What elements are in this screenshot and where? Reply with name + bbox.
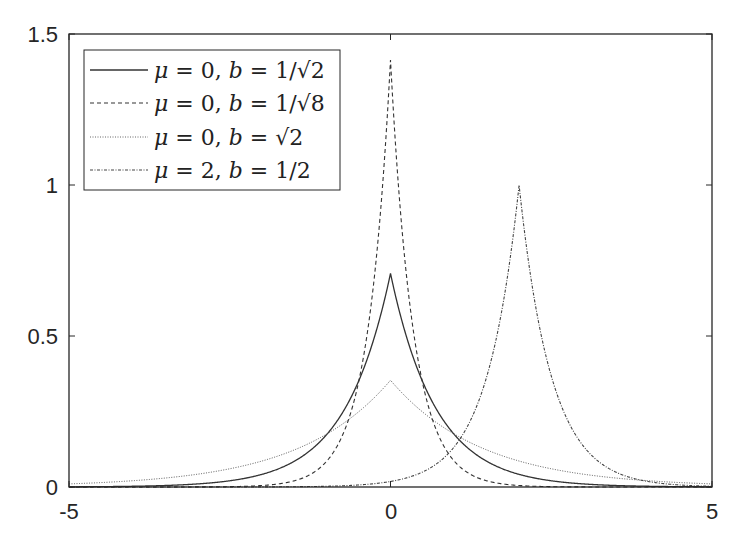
y-tick-label: 0 [46,475,58,500]
curve-dashdot [69,185,712,487]
legend: μ = 0, b = 1/√2 μ = 0, b = 1/√8 μ = 0, b… [84,50,340,190]
y-tick-labels: 0 0.5 1 1.5 [27,22,58,500]
legend-label: μ = 0, b = √2 [154,125,303,150]
laplace-pdf-chart: -5 0 5 0 0.5 1 1.5 μ = 0, b = 1/√2 μ = 0… [0,0,736,552]
x-tick-label: -5 [59,499,79,524]
legend-label: μ = 2, b = 1/2 [154,158,311,183]
legend-label: μ = 0, b = 1/√2 [154,58,325,83]
x-tick-label: 0 [385,499,397,524]
legend-label: μ = 0, b = 1/√8 [154,91,325,116]
curve-solid [69,273,712,486]
curve-dotted [69,380,712,484]
x-tick-labels: -5 0 5 [59,499,718,524]
y-tick-label: 0.5 [27,324,58,349]
y-tick-label: 1.5 [27,22,58,47]
y-tick-label: 1 [46,173,58,198]
x-tick-label: 5 [706,499,718,524]
